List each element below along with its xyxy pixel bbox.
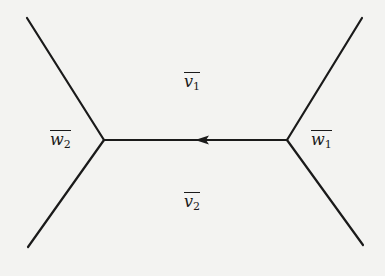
- edge-bottom-left: [28, 140, 104, 247]
- label-w2: w2: [50, 130, 71, 150]
- label-v1: v1: [184, 72, 200, 92]
- label-w1: w1: [311, 130, 332, 150]
- edge-top-right: [287, 18, 362, 140]
- edge-top-left: [27, 18, 104, 140]
- edge-bottom-right: [287, 140, 363, 245]
- label-v2: v2: [184, 192, 200, 212]
